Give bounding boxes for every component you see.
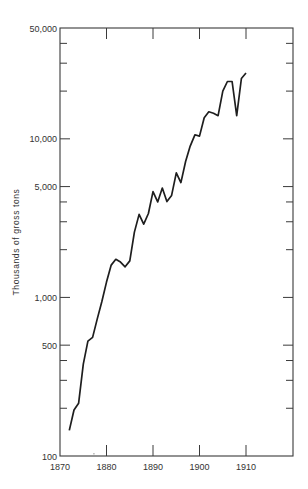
y-tick-label: 100 [42, 452, 57, 462]
x-tick-label: 1900 [189, 462, 209, 472]
data-series [69, 73, 246, 430]
y-axis-title: Thousands of gross tons [11, 189, 21, 296]
x-tick-label: 1910 [236, 462, 256, 472]
series-line [69, 73, 246, 430]
y-tick-label: 1,000 [34, 293, 57, 303]
y-tick-label: 5,000 [34, 182, 57, 192]
y-axis-ticks: 1005001,0005,00010,00050,000 [29, 24, 293, 462]
y-tick-label: 10,000 [29, 134, 57, 144]
x-tick-label: 1870 [50, 462, 70, 472]
y-tick-label: 500 [42, 341, 57, 351]
y-tick-label: 50,000 [29, 24, 57, 34]
plot-frame [60, 28, 293, 456]
x-tick-label: 1890 [143, 462, 163, 472]
axes-box [60, 28, 293, 456]
line-chart: 18701880189019001910 1005001,0005,00010,… [0, 0, 308, 489]
x-tick-label: 1880 [96, 462, 116, 472]
x-axis-ticks: 18701880189019001910 [50, 28, 256, 472]
